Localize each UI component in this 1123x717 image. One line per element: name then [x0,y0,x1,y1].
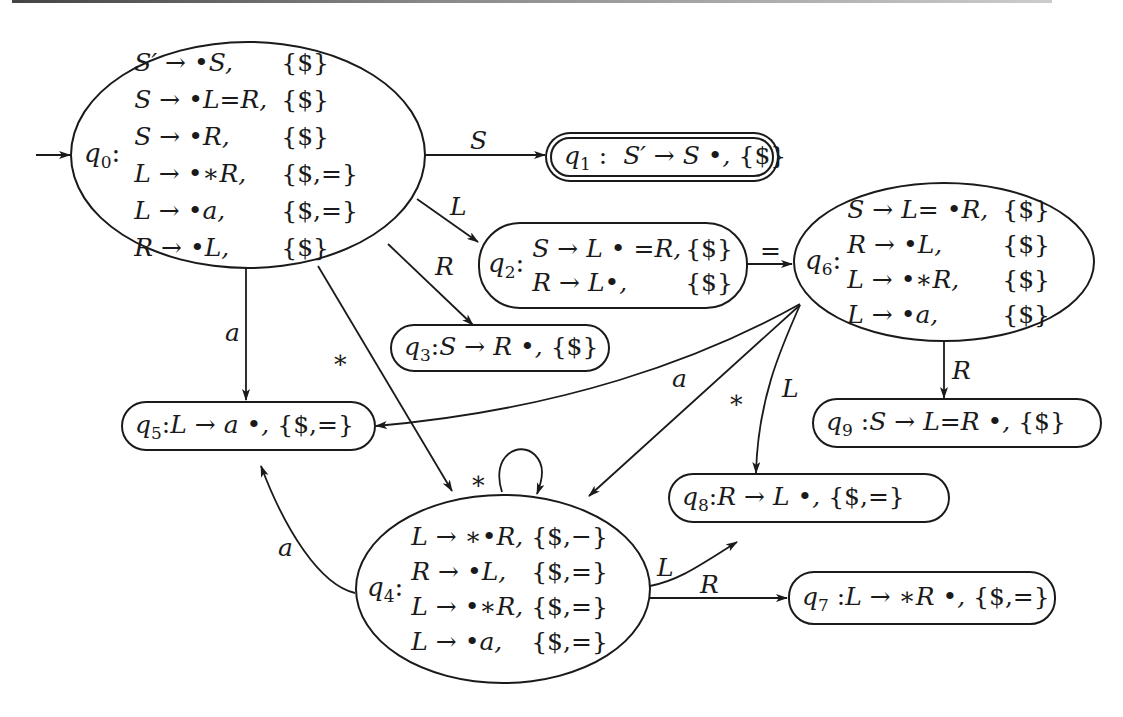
state-q5-text: q5:L → a •, {$,=} [135,410,354,443]
state-q6-label: q6: [805,245,841,279]
item-lookahead: {$} [281,44,358,81]
edge-label-q4-q4: ∗ [470,468,487,493]
item-lookahead: {$} [281,118,358,155]
item-lookahead: {$,−} [531,519,608,554]
state-q1-text: q1 : S′ → S •, {$} [564,141,786,174]
edge-label-q2-q6: = [760,238,781,263]
edge-label-q0-q1: S [470,128,487,153]
edge-q4-q5 [261,466,355,593]
item-production: R → •L, [847,227,988,262]
item-lookahead: {$} [1002,297,1050,332]
edge-label-q6-q5: a [672,366,687,391]
item-lookahead: {$} [685,232,733,266]
state-q5[interactable]: q5:L → a •, {$,=} [121,401,376,451]
edge-q4-q4 [499,449,542,494]
item-production: R → •L, [411,554,523,589]
edge-label-q4-q8: L [657,555,674,580]
item-production: L → •a, [134,192,267,229]
item-lookahead: {$} [1002,192,1050,227]
edge-q0-q3 [388,244,473,325]
item-production: S → L= •R, [847,192,988,227]
state-q8[interactable]: q8:R → L •, {$,=} [668,473,950,523]
state-q8-text: q8:R → L •, {$,=} [682,482,905,515]
item-lookahead: {$} [281,81,358,118]
edge-label-q4-q7: R [700,572,719,597]
edge-label-q0-q4: ∗ [332,347,349,372]
state-q0-label: q0: [84,138,120,172]
edge-label-q0-q5: a [225,320,240,345]
item-production: L → •∗R, [847,262,988,297]
item-production: S → L • =R, [532,232,681,266]
edge-label-q0-q2: L [450,194,467,219]
item-lookahead: {$,=} [281,192,358,229]
state-q0-items: S′ → •S,{$} S → •L=R,{$} S → •R,{$} L → … [134,44,358,266]
item-production: S → •L=R, [134,81,267,118]
state-q0[interactable]: q0: S′ → •S,{$} S → •L=R,{$} S → •R,{$} … [70,41,426,269]
edge-label-q6-q4: ∗ [728,387,745,412]
state-q2-label: q2: [488,248,524,282]
state-q2-items: S → L • =R,{$} R → L•,{$} [532,232,733,300]
edge-q0-q4 [318,266,452,491]
item-lookahead: {$} [1002,227,1050,262]
item-production: L → •∗R, [411,589,523,624]
state-q1[interactable]: q1 : S′ → S •, {$} [550,137,774,177]
state-q3[interactable]: q3:S → R •, {$} [390,324,610,372]
item-production: L → •a, [411,624,523,659]
item-production: L → •a, [847,297,988,332]
edge-label-q6-q9: R [952,358,971,383]
item-lookahead: {$,=} [531,624,608,659]
state-q4[interactable]: q4: L → ∗•R,{$,−} R → •L,{$,=} L → •∗R,{… [355,494,651,684]
edge-label-q4-q5: a [278,535,293,560]
state-q7[interactable]: q7 :L → ∗R •, {$,=} [788,571,1056,625]
item-production: R → •L, [134,229,267,266]
item-lookahead: {$} [1002,262,1050,297]
item-lookahead: {$,=} [531,589,608,624]
state-q4-label: q4: [367,572,403,606]
edge-label-q0-q3: R [435,254,454,279]
state-q4-items: L → ∗•R,{$,−} R → •L,{$,=} L → •∗R,{$,=}… [411,519,608,659]
state-q6[interactable]: q6: S → L= •R,{$} R → •L,{$} L → •∗R,{$}… [793,182,1095,342]
item-production: R → L•, [532,266,681,300]
item-lookahead: {$,=} [531,554,608,589]
item-production: S′ → •S, [134,44,267,81]
item-lookahead: {$,=} [281,155,358,192]
state-q6-items: S → L= •R,{$} R → •L,{$} L → •∗R,{$} L →… [847,192,1050,332]
edge-q6-q4 [589,305,800,496]
state-q9-text: q9 :S → L=R •, {$} [826,407,1066,440]
state-q7-text: q7 :L → ∗R •, {$,=} [802,582,1050,615]
edge-label-q6-q8: L [782,376,799,401]
item-lookahead: {$} [685,266,733,300]
state-q9[interactable]: q9 :S → L=R •, {$} [812,398,1102,448]
item-production: L → ∗•R, [411,519,523,554]
item-production: L → •∗R, [134,155,267,192]
state-q3-text: q3:S → R •, {$} [404,332,598,365]
state-q2[interactable]: q2: S → L • =R,{$} R → L•,{$} [478,222,748,309]
item-lookahead: {$} [281,229,358,266]
edge-q0-q2 [417,199,478,242]
item-production: S → •R, [134,118,267,155]
